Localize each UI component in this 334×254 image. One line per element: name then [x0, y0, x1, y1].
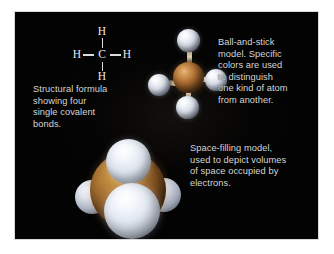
atom-label-hydrogen-right: H — [121, 49, 133, 61]
black-photo-plate: H H C H H Structural formula showing fou… — [15, 12, 318, 239]
space-filling-model — [73, 138, 183, 239]
hydrogen-volume-top — [106, 139, 151, 184]
bond-line-left — [83, 54, 94, 55]
caption-space-filling: Space-filling model, used to depict volu… — [190, 143, 316, 189]
caption-ball-and-stick: Ball-and-stick model. Specific colors ar… — [218, 37, 318, 107]
atom-label-carbon-center: C — [96, 49, 108, 61]
methane-models-figure: H H C H H Structural formula showing fou… — [0, 0, 334, 254]
caption-structural-formula: Structural formula showing four single c… — [33, 84, 159, 130]
atom-label-hydrogen-top: H — [96, 26, 108, 38]
hydrogen-volume-front — [104, 183, 160, 239]
atom-label-hydrogen-left: H — [71, 49, 83, 61]
bond-line-top — [102, 38, 103, 48]
carbon-atom-sphere — [173, 62, 204, 93]
hydrogen-atom-sphere-top — [177, 29, 200, 52]
atom-label-hydrogen-bottom: H — [96, 71, 108, 83]
structural-formula-diagram: H H C H H — [67, 25, 137, 79]
hydrogen-atom-sphere-bottom — [176, 96, 199, 119]
bond-line-right — [110, 54, 121, 55]
